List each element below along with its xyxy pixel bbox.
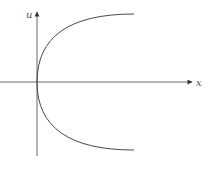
u-axis-label: u [26, 9, 32, 20]
x-axis-label: x [196, 77, 202, 88]
parabola-diagram: u x [0, 0, 213, 172]
